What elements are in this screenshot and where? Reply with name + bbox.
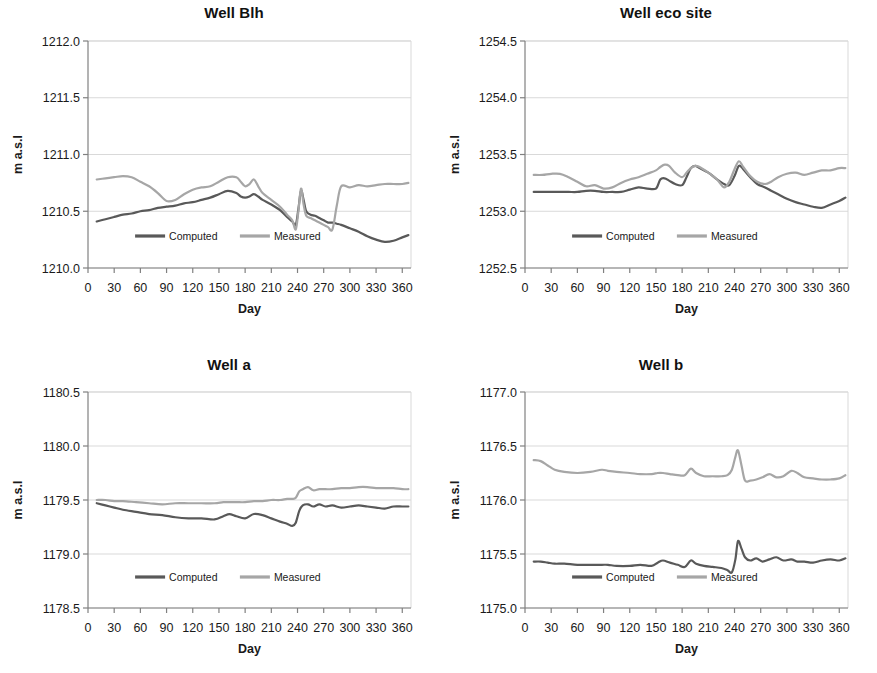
y-axis-title: m a.s.l bbox=[448, 135, 462, 174]
y-tick-label: 1177.0 bbox=[480, 386, 517, 400]
x-tick-label: 300 bbox=[776, 621, 797, 635]
x-tick-label: 360 bbox=[392, 281, 413, 295]
x-tick-label: 240 bbox=[287, 281, 308, 295]
y-tick-label: 1253.0 bbox=[479, 205, 517, 219]
y-tick-label: 1180.5 bbox=[43, 386, 80, 400]
x-tick-label: 120 bbox=[619, 621, 640, 635]
y-tick-label: 1179.0 bbox=[43, 548, 80, 562]
x-tick-label: 90 bbox=[597, 621, 611, 635]
x-tick-label: 0 bbox=[522, 621, 529, 635]
chart-panel-well-blh: Well Blh 1210.01210.51211.01211.51212.00… bbox=[0, 0, 438, 336]
x-tick-label: 360 bbox=[829, 621, 850, 635]
chart-canvas-well-b: 1175.01175.51176.01176.51177.00306090120… bbox=[437, 352, 877, 673]
x-tick-label: 330 bbox=[803, 621, 824, 635]
chart-canvas-well-eco-site: 1252.51253.01253.51254.01254.50306090120… bbox=[437, 0, 877, 340]
chart-panel-well-a: Well a 1178.51179.01179.51180.01180.5030… bbox=[0, 352, 438, 673]
x-tick-label: 30 bbox=[107, 621, 121, 635]
legend-label-computed: Computed bbox=[169, 230, 218, 242]
x-tick-label: 180 bbox=[235, 621, 256, 635]
x-tick-label: 360 bbox=[392, 621, 413, 635]
x-tick-label: 0 bbox=[85, 621, 92, 635]
chart-svg: 1210.01210.51211.01211.51212.00306090120… bbox=[0, 0, 438, 336]
x-tick-label: 0 bbox=[522, 281, 529, 295]
x-axis-title: Day bbox=[238, 642, 261, 656]
y-tick-label: 1175.0 bbox=[480, 602, 517, 616]
chart-panel-well-b: Well b 1175.01175.51176.01176.51177.0030… bbox=[437, 352, 875, 673]
y-tick-label: 1211.5 bbox=[43, 91, 80, 105]
legend-label-measured: Measured bbox=[711, 230, 758, 242]
y-tick-label: 1180.0 bbox=[43, 440, 80, 454]
x-tick-label: 60 bbox=[133, 621, 147, 635]
x-tick-label: 240 bbox=[287, 621, 308, 635]
chart-svg: 1178.51179.01179.51180.01180.50306090120… bbox=[0, 352, 438, 670]
legend-label-computed: Computed bbox=[169, 571, 218, 583]
x-tick-label: 150 bbox=[646, 281, 667, 295]
x-tick-label: 300 bbox=[776, 281, 797, 295]
x-tick-label: 150 bbox=[209, 281, 230, 295]
x-tick-label: 180 bbox=[672, 621, 693, 635]
x-tick-label: 150 bbox=[209, 621, 230, 635]
y-tick-label: 1179.5 bbox=[43, 494, 80, 508]
x-tick-label: 30 bbox=[544, 281, 558, 295]
x-tick-label: 30 bbox=[544, 621, 558, 635]
legend-label-measured: Measured bbox=[274, 571, 321, 583]
y-tick-label: 1175.5 bbox=[480, 548, 517, 562]
chart-svg: 1252.51253.01253.51254.01254.50306090120… bbox=[437, 0, 877, 336]
y-axis-title: m a.s.l bbox=[11, 135, 25, 174]
x-tick-label: 120 bbox=[182, 621, 203, 635]
x-tick-label: 90 bbox=[160, 281, 174, 295]
x-tick-label: 90 bbox=[597, 281, 611, 295]
x-tick-label: 210 bbox=[698, 281, 719, 295]
x-tick-label: 180 bbox=[235, 281, 256, 295]
page-bleed-text bbox=[0, 664, 877, 673]
x-tick-label: 120 bbox=[619, 281, 640, 295]
y-tick-label: 1212.0 bbox=[42, 35, 80, 49]
legend-label-computed: Computed bbox=[606, 230, 655, 242]
x-tick-label: 270 bbox=[750, 281, 771, 295]
x-tick-label: 30 bbox=[107, 281, 121, 295]
x-tick-label: 330 bbox=[366, 281, 387, 295]
x-tick-label: 0 bbox=[85, 281, 92, 295]
x-tick-label: 150 bbox=[646, 621, 667, 635]
x-tick-label: 270 bbox=[313, 621, 334, 635]
x-tick-label: 210 bbox=[261, 281, 282, 295]
legend-label-computed: Computed bbox=[606, 571, 655, 583]
x-axis-title: Day bbox=[238, 302, 261, 316]
chart-panel-well-eco-site: Well eco site 1252.51253.01253.51254.012… bbox=[437, 0, 875, 336]
x-tick-label: 360 bbox=[829, 281, 850, 295]
x-tick-label: 210 bbox=[261, 621, 282, 635]
x-tick-label: 270 bbox=[750, 621, 771, 635]
x-tick-label: 60 bbox=[570, 281, 584, 295]
x-tick-label: 90 bbox=[160, 621, 174, 635]
y-tick-label: 1253.5 bbox=[479, 148, 517, 162]
x-axis-title: Day bbox=[675, 642, 698, 656]
chart-canvas-well-a: 1178.51179.01179.51180.01180.50306090120… bbox=[0, 352, 438, 673]
y-tick-label: 1176.5 bbox=[480, 440, 517, 454]
x-tick-label: 240 bbox=[724, 281, 745, 295]
figure-grid: Well Blh 1210.01210.51211.01211.51212.00… bbox=[0, 0, 877, 673]
x-tick-label: 270 bbox=[313, 281, 334, 295]
x-tick-label: 330 bbox=[803, 281, 824, 295]
x-tick-label: 60 bbox=[133, 281, 147, 295]
x-tick-label: 180 bbox=[672, 281, 693, 295]
y-tick-label: 1254.0 bbox=[479, 91, 517, 105]
y-tick-label: 1254.5 bbox=[479, 35, 517, 49]
legend-label-measured: Measured bbox=[711, 571, 758, 583]
x-tick-label: 120 bbox=[182, 281, 203, 295]
x-tick-label: 240 bbox=[724, 621, 745, 635]
x-tick-label: 210 bbox=[698, 621, 719, 635]
y-tick-label: 1176.0 bbox=[480, 494, 517, 508]
y-tick-label: 1178.5 bbox=[43, 602, 80, 616]
x-tick-label: 60 bbox=[570, 621, 584, 635]
legend-label-measured: Measured bbox=[274, 230, 321, 242]
chart-svg: 1175.01175.51176.01176.51177.00306090120… bbox=[437, 352, 877, 670]
y-axis-title: m a.s.l bbox=[11, 481, 25, 520]
y-tick-label: 1210.5 bbox=[42, 205, 80, 219]
x-tick-label: 300 bbox=[339, 621, 360, 635]
y-axis-title: m a.s.l bbox=[448, 481, 462, 520]
chart-canvas-well-blh: 1210.01210.51211.01211.51212.00306090120… bbox=[0, 0, 438, 340]
y-tick-label: 1211.0 bbox=[43, 148, 80, 162]
x-tick-label: 300 bbox=[339, 281, 360, 295]
x-axis-title: Day bbox=[675, 302, 698, 316]
y-tick-label: 1252.5 bbox=[479, 262, 517, 276]
